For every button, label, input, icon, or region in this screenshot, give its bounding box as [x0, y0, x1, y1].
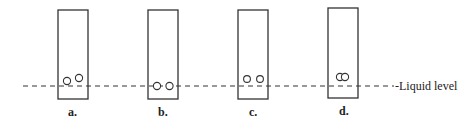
bubble-a-2 — [75, 74, 82, 81]
tube-d — [328, 8, 358, 98]
panel-d: d. — [328, 8, 358, 118]
panel-c: c. — [238, 10, 268, 119]
panel-a: a. — [58, 10, 88, 119]
panel-b: b. — [148, 10, 178, 119]
bubble-b-1 — [153, 82, 160, 89]
panel-label-b: b. — [158, 105, 168, 119]
panel-label-c: c. — [249, 105, 257, 119]
liquid-level-diagram: a. b. c. d. -Liquid level — [0, 0, 473, 132]
bubble-c-2 — [257, 76, 264, 83]
bubble-a-1 — [63, 77, 70, 84]
bubble-b-2 — [166, 82, 173, 89]
panel-label-d: d. — [339, 104, 349, 118]
liquid-level-label: -Liquid level — [395, 79, 458, 93]
panel-label-a: a. — [68, 105, 77, 119]
bubble-c-1 — [244, 76, 251, 83]
bubble-d-2 — [341, 73, 348, 80]
